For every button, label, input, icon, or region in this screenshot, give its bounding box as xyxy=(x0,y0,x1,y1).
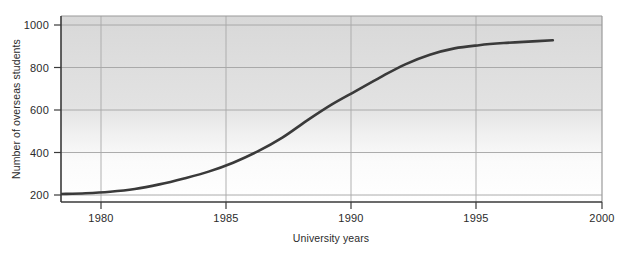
y-tick-label-200: 200 xyxy=(30,189,49,201)
chart-figure: 1000 800 600 400 200 1980 1985 1990 1995… xyxy=(0,0,623,257)
y-tick-marks xyxy=(54,25,61,195)
x-tick-label-2000: 2000 xyxy=(589,212,614,224)
x-tick-label-1995: 1995 xyxy=(463,212,488,224)
x-tick-labels: 1980 1985 1990 1995 2000 xyxy=(88,212,614,224)
x-tick-label-1985: 1985 xyxy=(213,212,238,224)
y-tick-label-400: 400 xyxy=(30,147,49,159)
x-tick-label-1980: 1980 xyxy=(88,212,113,224)
y-axis-title: Number of overseas students xyxy=(10,39,22,179)
y-tick-labels: 1000 800 600 400 200 xyxy=(24,19,49,201)
y-tick-label-800: 800 xyxy=(30,62,49,74)
line-chart: 1000 800 600 400 200 1980 1985 1990 1995… xyxy=(0,0,623,257)
x-tick-label-1990: 1990 xyxy=(338,212,363,224)
x-axis-title: University years xyxy=(293,232,369,244)
x-tick-marks xyxy=(101,202,602,209)
plot-area-background xyxy=(61,16,602,202)
y-tick-label-600: 600 xyxy=(30,104,49,116)
y-tick-label-1000: 1000 xyxy=(24,19,49,31)
